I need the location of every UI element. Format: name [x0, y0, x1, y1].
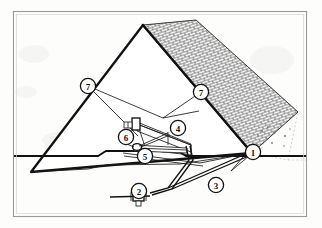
callout-2-circle: [131, 183, 146, 198]
callout-1-circle: [245, 144, 260, 159]
callout-7-left[interactable]: 7: [80, 78, 95, 93]
callout-7-right-circle: [193, 84, 208, 99]
callout-6[interactable]: 6: [118, 129, 133, 144]
callout-7-left-circle: [80, 78, 95, 93]
callout-1[interactable]: 1: [245, 144, 260, 159]
callout-7-right[interactable]: 7: [193, 84, 208, 99]
callout-4[interactable]: 4: [170, 120, 185, 135]
callout-2[interactable]: 2: [131, 183, 146, 198]
callout-4-circle: [170, 120, 185, 135]
callout-3[interactable]: 3: [208, 177, 223, 192]
technical-diagram: Pyramid structure cutaway with numbered …: [0, 0, 322, 228]
callout-3-circle: [208, 177, 223, 192]
diagram-canvas: Pyramid structure cutaway with numbered …: [0, 0, 322, 228]
callout-5-circle: [137, 148, 152, 163]
boom-head-housing: [132, 118, 140, 130]
callout-5[interactable]: 5: [137, 148, 152, 163]
callout-6-circle: [118, 129, 133, 144]
valve-stem: [136, 201, 141, 206]
